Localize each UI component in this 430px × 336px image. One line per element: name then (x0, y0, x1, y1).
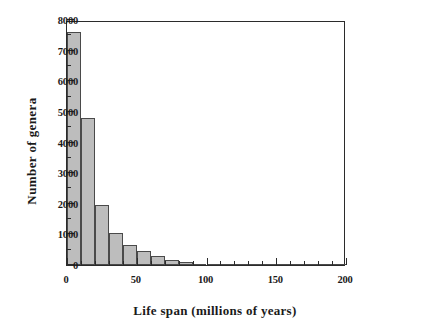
x-tick-minor (123, 261, 124, 265)
x-tick-minor (193, 261, 194, 265)
histogram-bar (290, 264, 304, 265)
histogram-bar (109, 233, 123, 265)
x-tick-minor (332, 261, 333, 265)
x-tick-major (276, 258, 277, 265)
histogram-bar (123, 245, 137, 265)
histogram-bar (318, 264, 332, 265)
y-tick-minor (67, 126, 71, 127)
y-tick-minor (67, 65, 71, 66)
y-tick-label: 3000 (18, 169, 78, 180)
histogram-bar (179, 262, 193, 265)
x-tick-minor (95, 261, 96, 265)
y-tick-label: 4000 (18, 138, 78, 149)
x-tick-minor (318, 261, 319, 265)
x-tick-minor (304, 261, 305, 265)
y-tick-label: 7000 (18, 46, 78, 57)
y-tick-label: 6000 (18, 77, 78, 88)
x-axis-title: Life span (millions of years) (0, 303, 430, 319)
x-tick-minor (290, 261, 291, 265)
y-tick-minor (67, 187, 71, 188)
x-tick-minor (81, 261, 82, 265)
x-tick-major (207, 258, 208, 265)
x-tick-minor (220, 261, 221, 265)
x-tick-minor (179, 261, 180, 265)
y-tick-label: 1000 (18, 230, 78, 241)
y-tick-minor (67, 157, 71, 158)
x-tick-minor (165, 261, 166, 265)
y-tick-minor (67, 96, 71, 97)
histogram-figure: Number of genera Life span (millions of … (0, 0, 430, 336)
histogram-bar (95, 205, 109, 265)
x-tick-minor (234, 261, 235, 265)
y-tick-minor (67, 34, 71, 35)
histogram-bar (234, 264, 248, 265)
histogram-bar (332, 264, 346, 265)
histogram-bar (207, 264, 221, 265)
y-tick-minor (67, 218, 71, 219)
x-tick-label: 100 (198, 275, 213, 286)
histogram-bar (81, 118, 95, 265)
bars-layer (67, 22, 344, 265)
x-tick-label: 0 (63, 275, 68, 286)
x-tick-label: 150 (268, 275, 283, 286)
y-tick-minor (67, 249, 71, 250)
plot-area (66, 21, 345, 266)
histogram-bar (248, 264, 262, 265)
x-tick-label: 50 (131, 275, 141, 286)
y-tick-label: 5000 (18, 108, 78, 119)
histogram-bar (276, 264, 290, 265)
y-tick-label: 8000 (18, 16, 78, 27)
x-tick-minor (151, 261, 152, 265)
histogram-bar (193, 264, 207, 265)
y-tick-label: 0 (18, 261, 78, 272)
histogram-bar (165, 260, 179, 266)
y-tick-label: 2000 (18, 200, 78, 211)
histogram-bar (220, 264, 234, 265)
x-tick-minor (262, 261, 263, 265)
histogram-bar (262, 264, 276, 265)
histogram-bar (137, 251, 151, 265)
x-tick-major (137, 258, 138, 265)
x-tick-major (346, 258, 347, 265)
histogram-bar (304, 264, 318, 265)
x-tick-minor (109, 261, 110, 265)
x-tick-label: 200 (337, 275, 352, 286)
x-tick-minor (248, 261, 249, 265)
histogram-bar (151, 256, 165, 265)
